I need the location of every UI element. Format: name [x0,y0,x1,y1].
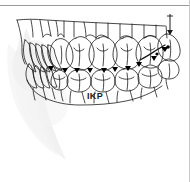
reference-pointer-marker [167,14,173,35]
figure-page: IKP [0,0,190,182]
figure-caption: IKP [0,91,190,101]
